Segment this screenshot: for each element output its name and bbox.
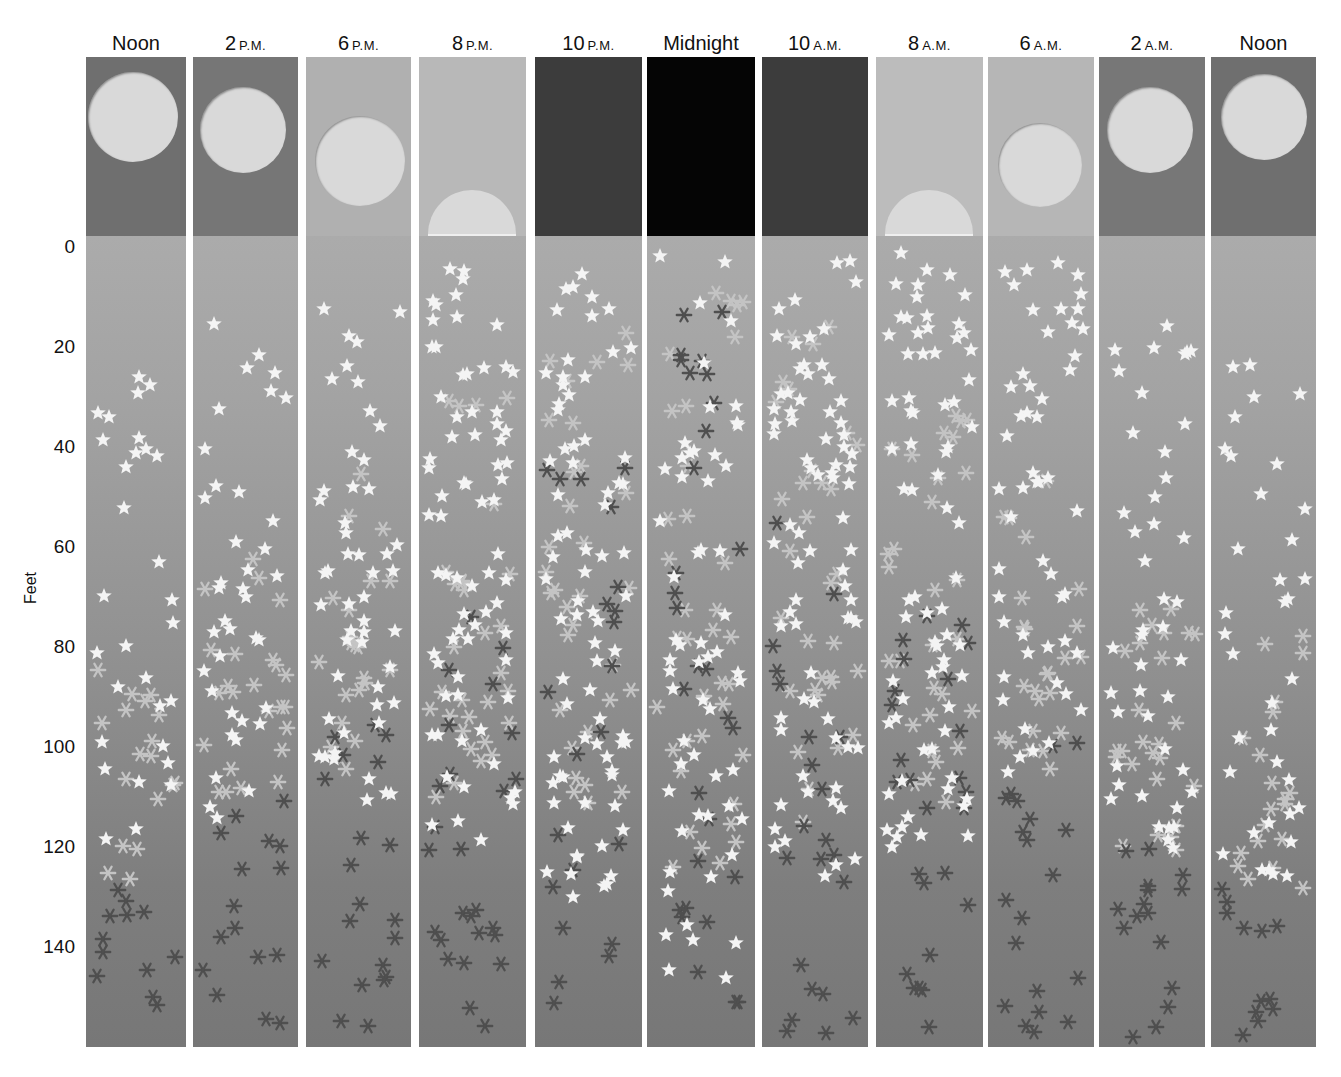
water-column [1099, 236, 1205, 1047]
star-icon [941, 266, 959, 284]
star-icon [1226, 408, 1244, 426]
dark-asterisk-icon [997, 891, 1015, 909]
dark-asterisk-icon [1014, 823, 1032, 841]
star-icon [463, 577, 481, 595]
dark-asterisk-icon [94, 930, 112, 948]
star-icon [695, 354, 713, 372]
light-asterisk-icon [1017, 528, 1035, 546]
light-asterisk-icon [374, 520, 392, 538]
star-icon [801, 328, 819, 346]
dark-asterisk-icon [800, 728, 818, 746]
column-label-midnight: Midnight [647, 30, 755, 56]
star-icon [159, 754, 177, 772]
star-icon [720, 797, 738, 815]
dark-asterisk-icon [835, 873, 853, 891]
star-icon [678, 916, 696, 934]
star-icon [499, 689, 517, 707]
star-icon [549, 486, 567, 504]
star-icon [97, 830, 115, 848]
time-value: 2 [1131, 32, 1142, 54]
dark-asterisk-icon [551, 470, 569, 488]
dark-asterisk-icon [689, 963, 707, 981]
axis-title: Feet [22, 572, 40, 604]
star-icon [834, 561, 852, 579]
star-icon [667, 631, 685, 649]
star-icon [420, 459, 438, 477]
star-icon [716, 253, 734, 271]
star-icon [250, 346, 268, 364]
star-icon [1069, 266, 1087, 284]
star-icon [1252, 485, 1270, 503]
star-icon [1245, 388, 1263, 406]
star-icon [141, 376, 159, 394]
dark-asterisk-icon [545, 994, 563, 1012]
star-icon [657, 926, 675, 944]
time-suffix: A.M. [1034, 38, 1063, 53]
light-asterisk-icon [278, 719, 296, 737]
star-icon [343, 443, 361, 461]
light-asterisk-icon [825, 634, 843, 652]
dark-asterisk-icon [1044, 866, 1062, 884]
dark-asterisk-icon [486, 926, 504, 944]
star-icon [438, 768, 456, 786]
dark-asterisk-icon [1117, 842, 1135, 860]
star-icon [497, 624, 515, 642]
light-asterisk-icon [224, 683, 242, 701]
light-asterisk-icon [310, 653, 328, 671]
star-icon [364, 564, 382, 582]
star-icon [1072, 285, 1090, 303]
dark-asterisk-icon [1124, 1028, 1142, 1046]
star-icon [488, 316, 506, 334]
dark-asterisk-icon [1252, 992, 1270, 1010]
time-value: 10 [562, 32, 584, 54]
star-icon [990, 480, 1008, 498]
time-column-2pm [193, 57, 298, 1047]
dark-asterisk-icon [1109, 900, 1127, 918]
star-icon [651, 247, 669, 265]
star-icon [424, 311, 442, 329]
star-icon [805, 693, 823, 711]
star-icon [326, 744, 344, 762]
star-icon [880, 785, 898, 803]
light-asterisk-icon [1148, 770, 1166, 788]
star-icon [600, 300, 618, 318]
star-icon [765, 425, 783, 443]
water-column [86, 236, 186, 1047]
light-asterisk-icon [678, 507, 696, 525]
star-icon [454, 270, 472, 288]
column-label-noon-1: Noon [86, 30, 186, 56]
light-asterisk-icon [622, 681, 640, 699]
star-icon [1145, 339, 1163, 357]
dark-asterisk-icon [1163, 979, 1181, 997]
setting-sun-icon [428, 190, 516, 236]
star-icon [1049, 254, 1067, 272]
star-icon [433, 487, 451, 505]
light-asterisk-icon [273, 741, 291, 759]
star-icon [360, 770, 378, 788]
light-asterisk-icon [89, 661, 107, 679]
star-icon [768, 327, 786, 345]
star-icon [497, 358, 515, 376]
column-label-2pm: 2P.M. [193, 30, 298, 56]
star-icon [926, 344, 944, 362]
dark-asterisk-icon [1068, 734, 1086, 752]
star-icon [945, 393, 963, 411]
dark-asterisk-icon [351, 895, 369, 913]
star-icon [137, 440, 155, 458]
star-icon [1024, 742, 1042, 760]
dark-asterisk-icon [726, 868, 744, 886]
star-icon [1016, 720, 1034, 738]
star-icon [448, 308, 466, 326]
star-icon [723, 846, 741, 864]
time-value: 10 [788, 32, 810, 54]
time-suffix: P.M. [466, 38, 493, 53]
star-icon [953, 667, 971, 685]
star-icon [1158, 317, 1176, 335]
dark-asterisk-icon [764, 637, 782, 655]
time-suffix: A.M. [922, 38, 951, 53]
star-icon [589, 612, 607, 630]
star-icon [554, 368, 572, 386]
star-icon [163, 591, 181, 609]
star-icon [1253, 861, 1271, 879]
star-icon [1136, 552, 1154, 570]
